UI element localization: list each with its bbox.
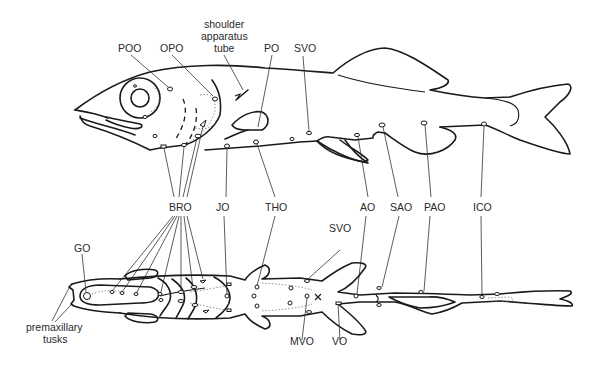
ventral-fish — [52, 250, 572, 340]
photophore-bro-v7 — [191, 286, 197, 289]
lateral-eye-ring — [120, 78, 160, 118]
photophore-lateral-1 — [290, 137, 294, 140]
anus-mark — [315, 294, 321, 300]
label-po: PO — [264, 42, 279, 54]
photophore-svo — [307, 131, 312, 134]
photophore-bro-v2 — [120, 292, 124, 295]
lateral-top-leaders — [131, 55, 309, 131]
photophore-bro-2 — [182, 143, 187, 146]
photophore-diagram: POO OPO shoulder apparatus tube PO SVO — [0, 0, 598, 369]
label-shoulder-line3: tube — [214, 42, 235, 54]
label-vo: VO — [332, 335, 347, 347]
photophore-bro-v10 — [192, 304, 198, 307]
photophore-ico-v — [480, 296, 484, 299]
photophore-bro-v11 — [203, 310, 209, 313]
dorsal-fin-base — [338, 75, 425, 92]
label-svo-ventral: SVO — [329, 222, 351, 234]
caudal-base — [485, 98, 519, 126]
label-svo-lateral: SVO — [294, 42, 316, 54]
photophore-bro-v5 — [159, 299, 163, 302]
lateral-photophores — [134, 85, 487, 148]
photophore-pao-v — [419, 291, 423, 294]
diagram-canvas: POO OPO shoulder apparatus tube PO SVO — [0, 0, 598, 369]
photophore-bro-v6 — [178, 291, 184, 294]
branchio-curve-2 — [172, 279, 185, 318]
branchio-curve-3 — [186, 278, 197, 319]
lateral-anal-fin — [385, 127, 456, 154]
photophore-ico — [482, 122, 487, 126]
photophore-ao-v — [354, 294, 358, 298]
photophore-sao — [379, 123, 385, 127]
photophore-v-2 — [288, 301, 292, 305]
photophore-vo — [336, 302, 341, 305]
photophore-svo-v — [305, 280, 310, 283]
photophore-jo — [225, 144, 230, 148]
label-pao: PAO — [424, 201, 445, 213]
label-sao: SAO — [390, 201, 412, 213]
label-mvo: MVO — [290, 335, 314, 347]
photophore-jo — [225, 294, 229, 298]
ventral-lower-jaw — [80, 285, 159, 305]
label-tusks: tusks — [43, 333, 68, 345]
label-go: GO — [74, 242, 90, 254]
photophore-tail-v — [495, 293, 500, 296]
photophore-eye-lower — [143, 115, 147, 118]
photophore-poo — [168, 87, 173, 91]
photophore-sao-v1 — [377, 287, 381, 290]
opercle-dash — [185, 108, 197, 145]
ventral-dots-3 — [262, 283, 312, 290]
photophore-bro-v9 — [178, 300, 184, 303]
pectoral-base — [225, 130, 248, 139]
label-premaxillary: premaxillary — [26, 321, 83, 333]
photophore-opo — [213, 97, 218, 101]
photophore-jo-upper — [227, 283, 231, 286]
photophore-jo-lower — [227, 309, 231, 312]
preopercle-dash — [175, 99, 185, 140]
label-shoulder-line1: shoulder — [204, 18, 245, 30]
photophore-bro-v4 — [158, 293, 162, 296]
photophore-bro-v3 — [134, 293, 138, 296]
lateral-pectoral-fin — [232, 112, 268, 130]
photophore-tho-2 — [252, 294, 256, 298]
label-jo: JO — [216, 201, 229, 213]
photophore-tho — [254, 140, 259, 144]
photophore-tho-1 — [255, 285, 259, 289]
photophore-tho-3 — [255, 304, 259, 308]
photophore-vo-lower — [307, 311, 312, 314]
photophore-mvo — [305, 294, 309, 298]
label-opo: OPO — [160, 42, 183, 54]
photophore-go — [84, 293, 91, 300]
ventral-snout-top — [72, 279, 120, 284]
photophore-bro-4 — [200, 120, 206, 127]
label-ao: AO — [360, 201, 375, 213]
ventral-curl-mark — [376, 295, 378, 302]
label-shoulder-line2: apparatus — [201, 30, 248, 42]
label-bro: BRO — [169, 201, 192, 213]
ventral-upper-outline — [120, 263, 572, 306]
lateral-lower-line — [205, 141, 317, 150]
branchio-curve-1 — [158, 278, 171, 316]
lateral-eye-pupil — [131, 89, 149, 107]
label-tho: THO — [265, 201, 287, 213]
label-poo: POO — [118, 42, 141, 54]
photophore-eye-upper — [134, 85, 137, 87]
label-ico: ICO — [473, 201, 492, 213]
photophore-bro-v1 — [110, 291, 114, 294]
gill-dots — [190, 94, 215, 142]
photophore-bro-1 — [161, 145, 166, 148]
lateral-fish — [75, 48, 571, 163]
photophore-cheek — [153, 134, 157, 137]
ventral-dots-4 — [262, 304, 312, 311]
ventral-snout — [69, 284, 120, 313]
photophore-v-1 — [289, 286, 293, 290]
photophore-pao — [421, 121, 427, 125]
photophore-bro-v8 — [200, 280, 206, 283]
photophore-sao-v2 — [377, 304, 381, 307]
ventral-lower-outline — [120, 301, 525, 335]
photophore-ao — [355, 133, 360, 136]
ventral-anal-fin — [389, 297, 455, 308]
